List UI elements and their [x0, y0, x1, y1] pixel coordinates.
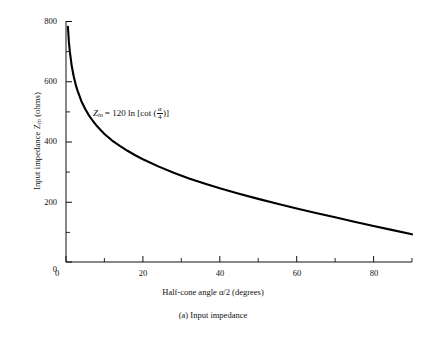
x-tick-label-80: 80: [361, 268, 387, 278]
figure-caption: (a) Input impedance: [0, 310, 426, 320]
y-axis-title: Input impedance Zin (ohms): [32, 41, 42, 241]
equation-annotation: Zin= 120 ln [cot (α4)]: [93, 106, 169, 122]
y-axis-title-main: Input impedance Z: [32, 124, 42, 190]
x-tick-label-60: 60: [284, 268, 310, 278]
equation-body: = 120 ln [cot (: [103, 109, 157, 118]
x-major-ticks: [66, 256, 374, 262]
x-tick-label-20: 20: [130, 268, 156, 278]
y-axis-title-subscript: in: [35, 119, 42, 124]
y-axis-title-units: (ohms): [32, 92, 42, 119]
x-tick-label-0: 0: [44, 268, 70, 278]
x-tick-label-40: 40: [207, 268, 233, 278]
fraction-denominator: 4: [157, 113, 163, 121]
fraction-numerator: α: [157, 106, 163, 113]
equation-fraction: α4: [157, 106, 163, 122]
data-series-input-impedance: [68, 27, 412, 234]
figure-input-impedance: 800 600 400 200 0 0 20 40 60 80 Zin= 120…: [0, 0, 426, 345]
y-tick-label-800: 800: [27, 16, 57, 26]
equation-tail: )]: [163, 109, 169, 118]
x-axis-title: Half-cone angle α/2 (degrees): [0, 287, 426, 297]
x-minor-ticks: [104, 258, 412, 262]
